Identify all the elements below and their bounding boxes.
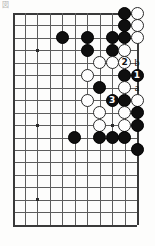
stone-black[interactable] xyxy=(81,44,94,57)
go-board[interactable]: 213ba xyxy=(0,0,155,246)
stone-white[interactable] xyxy=(93,119,106,132)
grid-line-horizontal xyxy=(13,225,138,227)
stone-black[interactable] xyxy=(106,31,119,44)
stone-white[interactable] xyxy=(131,7,144,20)
stone-black[interactable] xyxy=(118,94,131,107)
move-number-label: 1 xyxy=(132,70,143,81)
grid-line-vertical xyxy=(75,13,76,225)
star-point xyxy=(36,49,39,52)
stone-black[interactable] xyxy=(118,19,131,32)
go-diagram-root: 図 213ba xyxy=(0,0,155,246)
stone-white[interactable] xyxy=(118,106,131,119)
stone-black[interactable] xyxy=(118,31,131,44)
stone-white-move-2[interactable]: 2 xyxy=(118,56,131,69)
stone-white[interactable] xyxy=(106,56,119,69)
point-marker-a[interactable]: a xyxy=(131,81,144,94)
stone-black[interactable] xyxy=(131,119,144,132)
stone-black[interactable] xyxy=(118,131,131,144)
stone-black[interactable] xyxy=(106,44,119,57)
stone-black[interactable] xyxy=(106,131,119,144)
stone-black[interactable] xyxy=(81,31,94,44)
stone-white[interactable] xyxy=(81,94,94,107)
point-marker-b[interactable]: b xyxy=(131,56,144,69)
stone-white[interactable] xyxy=(118,119,131,132)
stone-white[interactable] xyxy=(131,94,144,107)
star-point xyxy=(111,124,114,127)
stone-black-move-1[interactable]: 1 xyxy=(131,69,144,82)
stone-black[interactable] xyxy=(118,7,131,20)
stone-black[interactable] xyxy=(131,106,144,119)
stone-black-move-3[interactable]: 3 xyxy=(106,94,119,107)
stone-white[interactable] xyxy=(118,81,131,94)
grid-line-vertical xyxy=(25,13,26,225)
stone-black[interactable] xyxy=(93,131,106,144)
move-number-label: 3 xyxy=(107,95,118,106)
stone-white[interactable] xyxy=(118,44,131,57)
stone-black[interactable] xyxy=(68,131,81,144)
stone-black[interactable] xyxy=(131,143,144,156)
star-point xyxy=(36,198,39,201)
stone-black[interactable] xyxy=(118,69,131,82)
move-number-label: 2 xyxy=(119,57,130,68)
grid-line-vertical xyxy=(37,13,38,225)
grid-line-vertical xyxy=(13,13,15,225)
stone-white[interactable] xyxy=(93,106,106,119)
grid-line-vertical xyxy=(50,13,51,225)
stone-white[interactable] xyxy=(81,69,94,82)
stone-white[interactable] xyxy=(131,19,144,32)
stone-white[interactable] xyxy=(131,31,144,44)
star-point xyxy=(36,124,39,127)
stone-white[interactable] xyxy=(93,56,106,69)
grid-line-vertical xyxy=(62,13,63,225)
stone-black[interactable] xyxy=(56,31,69,44)
stone-black[interactable] xyxy=(93,81,106,94)
